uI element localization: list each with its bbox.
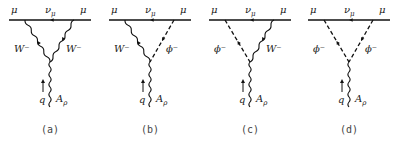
muon-label-left: μ bbox=[11, 5, 18, 15]
photon-line bbox=[49, 62, 51, 107]
left-arrow-icon bbox=[138, 41, 141, 45]
neutrino-label: νμ bbox=[344, 5, 355, 18]
left-line-label: W⁻ bbox=[114, 44, 130, 54]
fermion-arrow-icon bbox=[349, 18, 353, 22]
right-line-label: W⁻ bbox=[266, 44, 282, 54]
muon-label-right: μ bbox=[80, 5, 87, 15]
neutrino-label: νμ bbox=[245, 5, 256, 18]
fermion-arrow-icon bbox=[150, 18, 154, 22]
photon-label: Aρ bbox=[156, 94, 167, 107]
photon-label: Aρ bbox=[355, 94, 366, 107]
muon-label-left: μ bbox=[111, 5, 118, 15]
diagram-panel-b: μνμμW⁻ϕ⁻qAρ(b) bbox=[100, 0, 200, 152]
photon-line bbox=[348, 62, 350, 107]
diagram-panel-c: μνμμϕ⁻W⁻qAρ(c) bbox=[200, 0, 300, 152]
photon-label: Aρ bbox=[256, 94, 267, 107]
left-line-label: W⁻ bbox=[14, 44, 30, 54]
neutrino-label: νμ bbox=[145, 5, 156, 18]
photon-line bbox=[149, 62, 151, 107]
momentum-label: q bbox=[139, 95, 145, 105]
muon-label-right: μ bbox=[180, 5, 187, 15]
right-line-label: W⁻ bbox=[66, 44, 82, 54]
photon-label: Aρ bbox=[56, 94, 67, 107]
left-line-label: ϕ⁻ bbox=[214, 44, 226, 54]
neutrino-label: νμ bbox=[45, 5, 56, 18]
left-line-label: ϕ⁻ bbox=[313, 44, 325, 54]
panel-caption: (a) bbox=[0, 124, 100, 135]
right-line-label: ϕ⁻ bbox=[166, 44, 178, 54]
muon-label-right: μ bbox=[280, 5, 287, 15]
diagram-panel-d: μνμμϕ⁻ϕ⁻qAρ(d) bbox=[299, 0, 399, 152]
fermion-arrow-icon bbox=[250, 18, 254, 22]
momentum-label: q bbox=[239, 95, 245, 105]
momentum-label: q bbox=[338, 95, 344, 105]
panel-caption: (b) bbox=[100, 124, 200, 135]
left-arrow-icon bbox=[38, 41, 41, 45]
right-line-label: ϕ⁻ bbox=[365, 44, 377, 54]
photon-line bbox=[249, 62, 251, 107]
panel-caption: (d) bbox=[299, 124, 399, 135]
muon-label-left: μ bbox=[211, 5, 218, 15]
muon-label-right: μ bbox=[379, 5, 386, 15]
panel-caption: (c) bbox=[200, 124, 300, 135]
fermion-arrow-icon bbox=[50, 18, 54, 22]
momentum-label: q bbox=[39, 95, 45, 105]
muon-label-left: μ bbox=[310, 5, 317, 15]
diagram-panel-a: μνμμW⁻W⁻qAρ(a) bbox=[0, 0, 100, 152]
